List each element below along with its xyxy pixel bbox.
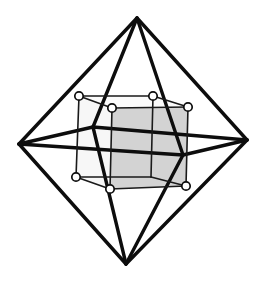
cube-vertex-marker-back_top_right [149,92,157,100]
cube-face-left-face [76,96,112,189]
cube-vertex-marker-back_bottom_left [72,173,80,181]
cube-vertex-marker-front_bottom_right [182,182,190,190]
cube-vertex-marker-front_bottom_left [106,185,114,193]
cube-edge-front_top_right-to-front_top_left [112,107,188,108]
figure-container: Cube inscribed in octahedron [0,0,260,283]
cube-vertex-marker-front_top_left [108,104,116,112]
cube-vertex-marker-front_top_right [184,103,192,111]
cube-in-octahedron-diagram: Cube inscribed in octahedron [0,0,260,283]
cube-vertex-marker-back_top_left [75,92,83,100]
